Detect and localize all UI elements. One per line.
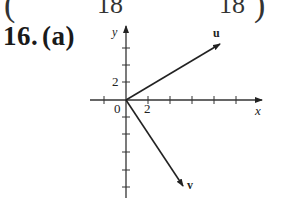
vector-v-label: v bbox=[187, 178, 193, 193]
vector-u-label: u bbox=[213, 26, 220, 41]
y-axis-label: y bbox=[112, 25, 117, 40]
vector-v bbox=[126, 100, 183, 186]
x-axis-label: x bbox=[255, 103, 261, 119]
y-tick-label: 2 bbox=[112, 74, 119, 90]
vector-figure bbox=[0, 0, 288, 199]
x-tick-label: 2 bbox=[144, 101, 151, 117]
origin-label: 0 bbox=[114, 101, 121, 117]
vector-u bbox=[126, 44, 220, 100]
